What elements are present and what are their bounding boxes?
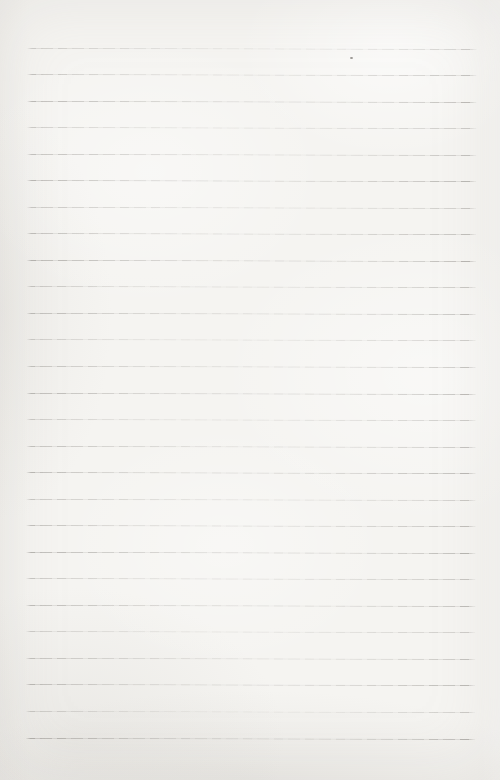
ruled-line [27, 74, 477, 76]
ruled-line [27, 127, 477, 129]
ruled-line [26, 605, 476, 607]
ruled-line [27, 48, 477, 50]
ruled-line [26, 631, 476, 633]
page-vignette [0, 0, 500, 780]
ruled-line [26, 393, 476, 395]
ruled-line [27, 260, 477, 262]
ruled-line [26, 499, 476, 501]
ruled-line [26, 658, 476, 660]
ruled-line [26, 578, 476, 580]
ruled-line [26, 446, 476, 448]
ruled-line [26, 286, 476, 288]
ruled-line [26, 684, 476, 686]
ruled-line [26, 711, 476, 713]
ruled-line [26, 366, 476, 368]
paper-texture [0, 0, 500, 780]
ruled-lines-container [0, 0, 500, 780]
ruled-line [27, 180, 477, 182]
ruled-line [27, 101, 477, 103]
ruled-line [26, 738, 476, 740]
ruled-line [26, 339, 476, 341]
ruled-line [27, 207, 477, 209]
ruled-line [26, 472, 476, 474]
ruled-line [26, 419, 476, 421]
ruled-line [27, 233, 477, 235]
dust-speck [350, 57, 353, 59]
ruled-line [27, 154, 477, 156]
ruled-line [26, 525, 476, 527]
ruled-line [26, 552, 476, 554]
ruled-line [26, 313, 476, 315]
notebook-page [0, 0, 500, 780]
